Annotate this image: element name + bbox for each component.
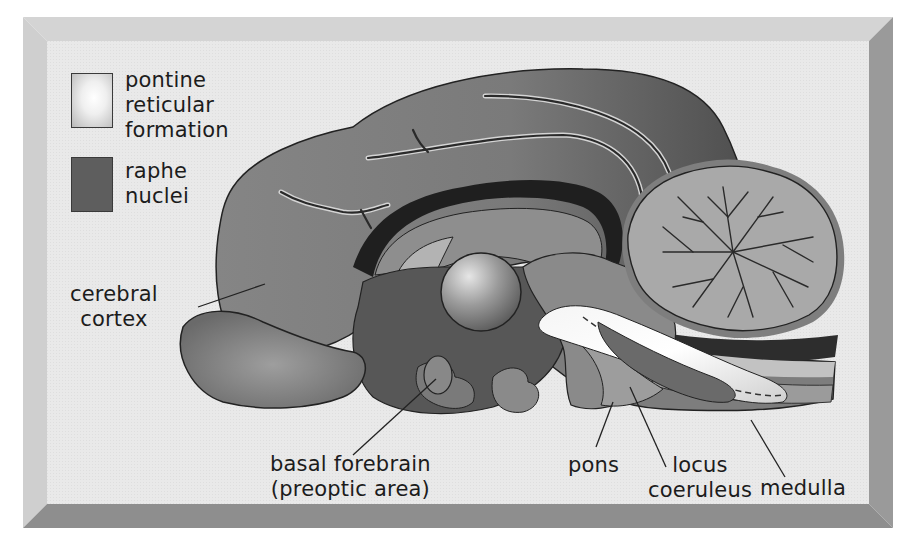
label-cerebral-cortex: cerebral cortex: [70, 282, 158, 332]
label-medulla: medulla: [760, 476, 846, 501]
label-pons: pons: [568, 453, 619, 478]
legend-label-pontine: pontine reticular formation: [125, 68, 229, 143]
label-locus-coeruleus: locus coeruleus: [648, 453, 752, 503]
legend-label-raphe: raphe nuclei: [125, 159, 189, 209]
legend-swatch-raphe: [71, 157, 113, 212]
cerebellum: [622, 160, 844, 339]
label-basal-forebrain: basal forebrain (preoptic area): [270, 452, 431, 502]
legend-swatch-pontine: [71, 73, 113, 128]
figure-frame: pontine reticular formation raphe nuclei…: [23, 17, 893, 528]
